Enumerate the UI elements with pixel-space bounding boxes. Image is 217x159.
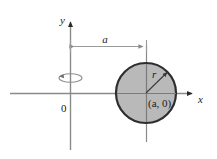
x-axis-label: x <box>197 93 203 105</box>
geometry-diagram: x y 0 a r <box>0 0 217 159</box>
figure-container: x y 0 a r <box>0 0 217 159</box>
radius-label: r <box>152 68 157 80</box>
origin-label: 0 <box>61 102 67 114</box>
y-axis-label: y <box>59 14 65 26</box>
circle-center-label: (a, 0) <box>148 97 172 110</box>
dimension-a-label: a <box>102 33 108 45</box>
dimension-a-group: a <box>71 33 147 53</box>
